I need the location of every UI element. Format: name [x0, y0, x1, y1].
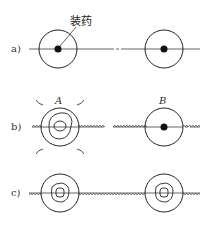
row-b-label: b) [11, 121, 21, 132]
point-a-label: A [55, 95, 62, 106]
row-b-diagram [32, 100, 200, 154]
row-c-label: c) [11, 187, 21, 198]
blast-crack-diagram [0, 0, 215, 229]
row-a-diagram [29, 27, 200, 68]
row-a-label: a) [11, 43, 21, 54]
row-c-diagram [29, 174, 200, 212]
figure-caption-faint [10, 218, 205, 226]
charge-label: 装药 [70, 12, 92, 28]
point-b-label: B [159, 95, 166, 106]
